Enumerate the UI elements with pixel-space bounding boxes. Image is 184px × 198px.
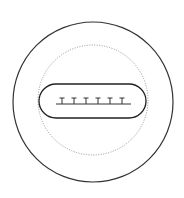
contact-pin bbox=[72, 98, 77, 104]
usb-c-port-diagram bbox=[0, 0, 184, 198]
contact-pin bbox=[84, 98, 89, 104]
contact-pin bbox=[96, 98, 101, 104]
contact-pin bbox=[108, 98, 113, 104]
inner-dotted-ring bbox=[38, 45, 148, 155]
contact-pin bbox=[120, 98, 125, 104]
connector-slot bbox=[39, 84, 146, 118]
contact-pins bbox=[56, 98, 131, 104]
outer-ring bbox=[13, 22, 173, 182]
contact-pin bbox=[60, 98, 65, 104]
